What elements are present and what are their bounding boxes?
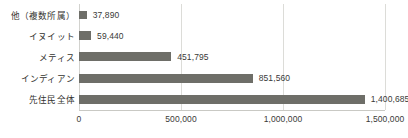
bar-4 — [79, 95, 365, 104]
x-axis-tick-3: 1,500,000 — [366, 114, 405, 124]
bar-row-0: 37,890 — [79, 4, 385, 25]
y-axis-label-4: 先住民全体 — [29, 89, 75, 110]
plot-area: 37,890 59,440 451,795 851,560 1,400,685 — [79, 4, 385, 110]
bar-row-2: 451,795 — [79, 46, 385, 67]
y-axis-category-labels: 他（複数所属） イヌイット メティス インディアン 先住民全体 — [0, 4, 75, 110]
y-axis-label-0: 他（複数所属） — [11, 4, 75, 25]
bar-1 — [79, 31, 91, 40]
y-axis-label-1: イヌイット — [29, 25, 75, 46]
bar-row-1: 59,440 — [79, 25, 385, 46]
x-axis-tick-0: 0 — [77, 114, 82, 124]
bar-value-label-0: 37,890 — [93, 10, 120, 20]
y-axis-label-3: インディアン — [21, 68, 75, 89]
x-axis-tick-1: 500,000 — [165, 114, 196, 124]
bar-2 — [79, 52, 171, 61]
bar-0 — [79, 11, 87, 19]
bar-value-label-2: 451,795 — [177, 52, 208, 62]
x-axis-tick-2: 1,000,000 — [264, 114, 303, 124]
bar-value-label-1: 59,440 — [97, 31, 124, 41]
bar-3 — [79, 74, 253, 83]
y-axis-label-2: メティス — [39, 46, 75, 67]
bar-row-4: 1,400,685 — [79, 89, 385, 110]
bar-value-label-3: 851,560 — [259, 73, 290, 83]
bar-chart: 他（複数所属） イヌイット メティス インディアン 先住民全体 37,890 5… — [0, 0, 408, 138]
bar-row-3: 851,560 — [79, 68, 385, 89]
bar-value-label-4: 1,400,685 — [371, 94, 408, 104]
x-axis-line — [79, 110, 385, 111]
